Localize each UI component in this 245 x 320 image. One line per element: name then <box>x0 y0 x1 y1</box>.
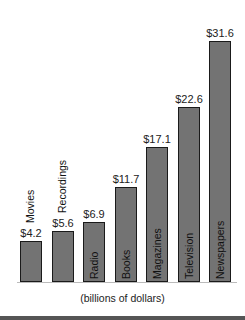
x-axis-label: (billions of dollars) <box>0 292 245 304</box>
bar-movies <box>20 241 42 282</box>
category-label: Movies <box>24 190 36 223</box>
category-label: Books <box>120 250 132 279</box>
value-label: $22.6 <box>169 93 209 105</box>
category-label: Recordings <box>56 160 68 213</box>
x-axis-baseline <box>17 282 237 283</box>
category-label: Newspapers <box>214 221 226 279</box>
category-label: Radio <box>88 252 100 279</box>
footer-divider <box>0 316 245 320</box>
category-label: Magazines <box>151 228 163 279</box>
value-label: $31.6 <box>200 27 240 39</box>
value-label: $11.7 <box>106 173 146 185</box>
category-label: Television <box>183 233 195 279</box>
value-label: $17.1 <box>137 133 177 145</box>
value-label: $6.9 <box>74 208 114 220</box>
media-spending-bar-chart: (billions of dollars) $4.2Movies$5.6Reco… <box>0 0 245 320</box>
bar-recordings <box>52 231 74 282</box>
